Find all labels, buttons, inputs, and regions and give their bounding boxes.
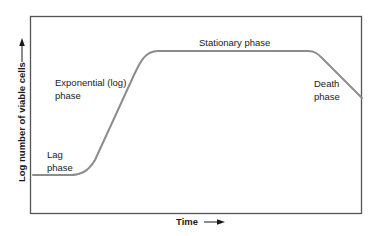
label-death-line2: phase	[314, 91, 340, 102]
label-exponential-line1: Exponential (log)	[55, 77, 126, 88]
label-lag-line1: Lag	[47, 149, 63, 160]
label-stationary: Stationary phase	[199, 37, 270, 48]
growth-curve-diagram: Exponential (log) phase Stationary phase…	[0, 0, 378, 236]
plot-frame	[31, 17, 362, 214]
label-lag-line2: phase	[47, 162, 73, 173]
x-axis-label: Time	[176, 216, 198, 227]
up-arrow-icon	[19, 38, 25, 62]
y-axis-label: Log number of viable cells	[16, 62, 27, 182]
label-exponential-line2: phase	[55, 90, 81, 101]
growth-curve	[33, 51, 362, 175]
right-arrow-icon	[204, 219, 225, 225]
label-death-line1: Death	[314, 78, 339, 89]
